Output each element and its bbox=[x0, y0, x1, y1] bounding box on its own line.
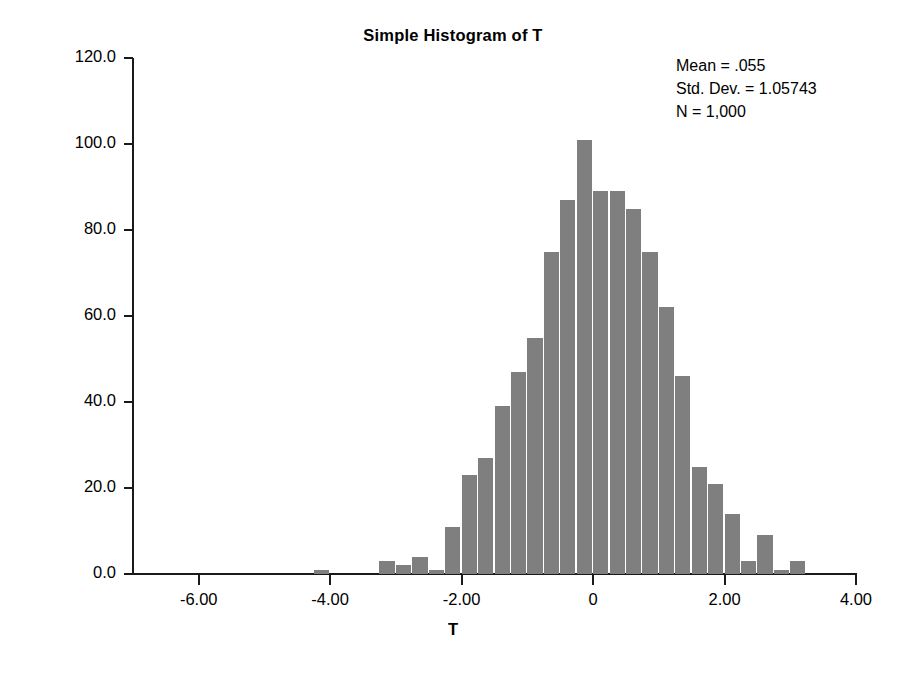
y-axis-tick bbox=[124, 57, 133, 59]
histogram-bar bbox=[708, 484, 723, 574]
x-axis-tick-label: -4.00 bbox=[311, 590, 349, 609]
histogram-bar bbox=[429, 570, 444, 574]
y-axis-tick bbox=[124, 315, 133, 317]
y-axis-tick bbox=[124, 401, 133, 403]
histogram-bar bbox=[757, 535, 772, 574]
histogram-bar bbox=[379, 561, 394, 574]
x-axis-tick-label: 4.00 bbox=[840, 590, 872, 609]
histogram-bar bbox=[462, 475, 477, 574]
y-axis-tick bbox=[124, 143, 133, 145]
histogram-bar bbox=[725, 514, 740, 574]
x-axis-tick bbox=[329, 575, 331, 585]
y-axis-tick bbox=[124, 573, 133, 575]
histogram-bar bbox=[610, 191, 625, 574]
histogram-bar bbox=[593, 191, 608, 574]
y-axis-tick bbox=[124, 229, 133, 231]
histogram-bar bbox=[659, 307, 674, 574]
x-axis-tick bbox=[461, 575, 463, 585]
histogram-figure: Simple Histogram of T Mean = .055 Std. D… bbox=[0, 0, 906, 679]
x-axis-tick bbox=[198, 575, 200, 585]
x-axis-tick bbox=[592, 575, 594, 585]
histogram-bar bbox=[396, 565, 411, 574]
histogram-bar bbox=[527, 338, 542, 575]
y-axis-tick-label: 60.0 bbox=[84, 305, 116, 324]
x-axis-tick-label: 2.00 bbox=[708, 590, 740, 609]
y-axis-tick-label: 40.0 bbox=[84, 391, 116, 410]
x-axis-tick-label: -2.00 bbox=[443, 590, 481, 609]
y-axis-tick-label: 80.0 bbox=[84, 219, 116, 238]
histogram-bar bbox=[692, 467, 707, 575]
histogram-bar bbox=[642, 252, 657, 575]
histogram-bar bbox=[675, 376, 690, 574]
x-axis-tick bbox=[724, 575, 726, 585]
x-axis-title: T bbox=[0, 620, 906, 639]
x-axis-tick-label: -6.00 bbox=[180, 590, 218, 609]
histogram-bar bbox=[314, 570, 329, 574]
y-axis-tick-label: 120.0 bbox=[75, 47, 116, 66]
histogram-bar bbox=[478, 458, 493, 574]
histogram-bar bbox=[577, 140, 592, 574]
y-axis-tick-label: 100.0 bbox=[75, 133, 116, 152]
x-axis-tick-label: 0 bbox=[588, 590, 597, 609]
histogram-bar bbox=[560, 200, 575, 574]
histogram-bar bbox=[495, 406, 510, 574]
histogram-bar bbox=[445, 527, 460, 574]
chart-title: Simple Histogram of T bbox=[0, 26, 906, 45]
histogram-bar bbox=[741, 561, 756, 574]
y-axis-tick-label: 0.0 bbox=[93, 563, 116, 582]
histogram-bar bbox=[774, 570, 789, 574]
x-axis-tick bbox=[855, 575, 857, 585]
histogram-bar bbox=[544, 252, 559, 575]
histogram-bar bbox=[511, 372, 526, 574]
histogram-bars bbox=[133, 58, 856, 574]
histogram-bar bbox=[790, 561, 805, 574]
histogram-bar bbox=[626, 209, 641, 575]
histogram-bar bbox=[412, 557, 427, 574]
y-axis-tick bbox=[124, 487, 133, 489]
y-axis-tick-label: 20.0 bbox=[84, 477, 116, 496]
